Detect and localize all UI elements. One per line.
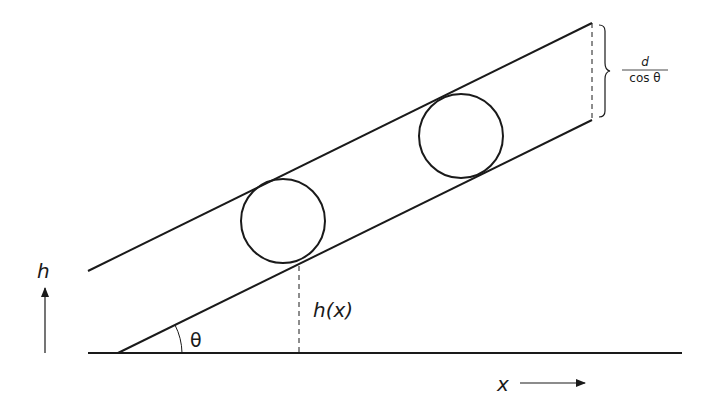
inclined-channel-diagram: d cos θ θ h(x) h x: [0, 0, 716, 407]
x-axis-label: x: [496, 372, 509, 396]
theta-label: θ: [190, 329, 202, 351]
fraction-numerator: d: [641, 55, 649, 69]
sphere-upper: [419, 94, 503, 178]
sphere-lower: [241, 179, 325, 263]
angle-arc: [175, 325, 182, 353]
height-function-label: h(x): [313, 298, 353, 322]
h-axis-label: h: [37, 259, 50, 283]
fraction-denominator: cos θ: [629, 71, 660, 85]
upper-incline-line: [88, 23, 592, 271]
lower-incline-line: [118, 120, 592, 353]
curly-brace: [599, 25, 610, 117]
